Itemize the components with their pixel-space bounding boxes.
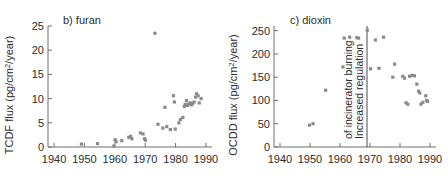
furan-y-ticks: 0510152025 — [32, 20, 52, 153]
y-tick-label: 150 — [252, 71, 270, 83]
data-point-marker — [424, 94, 427, 97]
data-point-marker — [114, 140, 117, 143]
furan-panel-title: b) furan — [63, 14, 101, 26]
x-tick-label: 1970 — [133, 153, 157, 165]
annotation-line-2: of incinerator burning — [342, 40, 354, 139]
data-point-marker — [120, 139, 123, 142]
data-point-marker — [172, 94, 175, 97]
data-point-marker — [391, 76, 394, 79]
dioxin-ylabel-main: OCDD flux (pg/cm — [227, 67, 239, 156]
x-tick-label: 1950 — [298, 153, 322, 165]
chart-panel-furan: 0510152025 194019501960197019801990 b) f… — [0, 0, 224, 187]
data-point-marker — [177, 121, 180, 124]
data-point-marker — [192, 100, 195, 103]
data-point-marker — [311, 122, 314, 125]
furan-ylabel-tail: /year) — [3, 36, 15, 64]
dioxin-panel-title: c) dioxin — [290, 14, 331, 26]
y-tick-label: 10 — [32, 93, 44, 105]
dioxin-y-axis-label: OCDD flux (pg/cm2/year) — [227, 34, 239, 156]
y-tick-label: 15 — [32, 68, 44, 80]
data-point-marker — [413, 74, 416, 77]
y-tick-label: 250 — [252, 25, 270, 37]
data-point-marker — [393, 63, 396, 66]
data-point-marker — [418, 91, 421, 94]
furan-plot-svg: 0510152025 194019501960197019801990 b) f… — [0, 0, 224, 187]
data-point-marker — [165, 125, 168, 128]
y-tick-label: 100 — [252, 94, 270, 106]
furan-ylabel-main: TCDF flux (pg/cm — [3, 68, 15, 154]
data-point-marker — [357, 37, 360, 40]
y-tick-label: 50 — [258, 118, 270, 130]
data-point-marker — [173, 100, 176, 103]
data-point-marker — [308, 124, 311, 127]
furan-data-points — [80, 32, 203, 148]
x-tick-label: 1960 — [103, 153, 127, 165]
data-point-marker — [426, 100, 429, 103]
data-point-marker — [199, 97, 202, 100]
x-tick-label: 1990 — [194, 153, 218, 165]
data-point-marker — [181, 116, 184, 119]
data-point-marker — [174, 127, 177, 130]
dioxin-ylabel-tail: /year) — [227, 34, 239, 62]
x-tick-label: 1940 — [268, 153, 292, 165]
svg-text:OCDD flux (pg/cm2/year): OCDD flux (pg/cm2/year) — [227, 34, 239, 156]
y-tick-label: 25 — [32, 20, 44, 32]
figure-container: 0510152025 194019501960197019801990 b) f… — [0, 0, 448, 187]
y-tick-label: 0 — [264, 141, 270, 153]
x-tick-label: 1990 — [418, 153, 442, 165]
furan-y-axis-label: TCDF flux (pg/cm2/year) — [3, 36, 15, 154]
svg-text:TCDF flux (pg/cm2/year): TCDF flux (pg/cm2/year) — [3, 36, 15, 154]
data-point-marker — [198, 101, 201, 104]
data-point-marker — [382, 36, 385, 39]
x-tick-label: 1980 — [388, 153, 412, 165]
data-point-marker — [369, 67, 372, 70]
data-point-marker — [343, 37, 346, 40]
data-point-marker — [161, 127, 164, 130]
data-point-marker — [141, 132, 144, 135]
chart-panel-dioxin: 050100150200250 194019501960197019801990… — [224, 0, 448, 187]
data-point-marker — [415, 83, 418, 86]
data-point-marker — [366, 29, 369, 32]
dioxin-plot-svg: 050100150200250 194019501960197019801990… — [224, 0, 448, 187]
annotation-line-1: Increased regulation — [353, 44, 365, 139]
data-point-marker — [324, 89, 327, 92]
data-point-marker — [185, 99, 188, 102]
y-tick-label: 20 — [32, 44, 44, 56]
furan-x-ticks: 194019501960197019801990 — [42, 143, 218, 165]
y-tick-label: 5 — [38, 117, 44, 129]
data-point-marker — [374, 38, 377, 41]
dioxin-data-points — [308, 29, 429, 127]
y-tick-label: 200 — [252, 48, 270, 60]
x-tick-label: 1970 — [358, 153, 382, 165]
x-tick-label: 1940 — [42, 153, 66, 165]
data-point-marker — [377, 67, 380, 70]
data-point-marker — [163, 106, 166, 109]
data-point-marker — [80, 142, 83, 145]
data-point-marker — [403, 77, 406, 80]
x-tick-label: 1950 — [72, 153, 96, 165]
data-point-marker — [348, 36, 351, 39]
data-point-marker — [156, 123, 159, 126]
furan-axes: 0510152025 194019501960197019801990 — [32, 20, 218, 165]
data-point-marker — [196, 94, 199, 97]
data-point-marker — [139, 131, 142, 134]
data-point-marker — [96, 142, 99, 145]
y-tick-label: 0 — [38, 141, 44, 153]
incinerator-regulation-annotation: Increased regulation of incinerator burn… — [342, 40, 365, 139]
data-point-marker — [421, 101, 424, 104]
data-point-marker — [406, 103, 409, 106]
dioxin-x-ticks: 194019501960197019801990 — [268, 143, 442, 165]
data-point-marker — [169, 128, 172, 131]
x-tick-label: 1960 — [328, 153, 352, 165]
data-point-marker — [112, 144, 115, 147]
x-tick-label: 1980 — [163, 153, 187, 165]
data-point-marker — [144, 139, 147, 142]
data-point-marker — [153, 32, 156, 35]
data-point-marker — [130, 137, 133, 140]
